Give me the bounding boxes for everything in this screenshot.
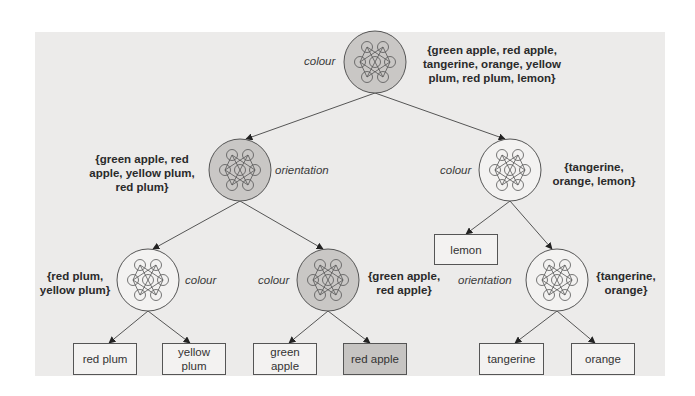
leaf-red-plum: red plum [73, 343, 137, 375]
node-left-right [297, 249, 359, 311]
leaf-tangerine: tangerine [479, 343, 544, 375]
right-set-label: {tangerine, orange, lemon} [544, 160, 644, 188]
node-left [209, 139, 271, 201]
left-left-feature-label: colour [185, 274, 216, 286]
tree-diagram [0, 0, 695, 396]
left-feature-label: orientation [275, 164, 329, 176]
leaf-lemon: lemon [434, 234, 498, 265]
leaf-green-apple: green apple [253, 343, 317, 375]
tree-edges [109, 93, 595, 343]
node-right [479, 139, 541, 201]
leaf-yellow-plum: yellow plum [162, 343, 226, 375]
leaf-red-apple: red apple [343, 343, 407, 375]
left-right-feature-label: colour [258, 274, 289, 286]
left-left-set-label: {red plum, yellow plum} [34, 269, 116, 297]
right-feature-label: colour [440, 164, 471, 176]
root-feature-label: colour [304, 55, 335, 67]
node-left-left [117, 249, 179, 311]
left-set-label: {green apple, red apple, yellow plum, re… [80, 152, 204, 194]
left-right-set-label: {green apple, red apple} [364, 269, 444, 297]
leaf-orange: orange [571, 343, 635, 375]
node-right-right [526, 249, 588, 311]
right-right-set-label: {tangerine, orange} [590, 269, 662, 297]
right-right-feature-label: orientation [458, 274, 512, 286]
node-root [344, 31, 406, 93]
root-set-label: {green apple, red apple, tangerine, oran… [412, 43, 572, 85]
